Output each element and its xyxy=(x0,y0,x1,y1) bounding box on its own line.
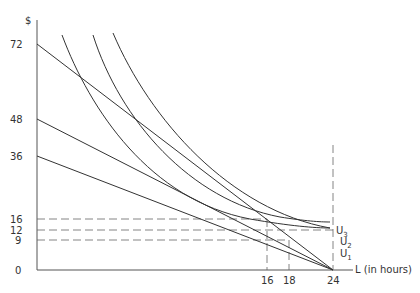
y-tick-48: 48 xyxy=(10,114,23,125)
x-tick-16: 16 xyxy=(261,275,274,286)
y-tick-72: 72 xyxy=(10,39,23,50)
x-axis-label: L (in hours) xyxy=(355,264,412,275)
x-tick-18: 18 xyxy=(283,275,296,286)
label-u1: U1 xyxy=(340,248,352,262)
indifference-curves xyxy=(62,33,330,228)
y-tick-9: 9 xyxy=(15,235,21,246)
reference-lines xyxy=(37,145,333,270)
chart: $ 72 48 36 16 12 9 0 16 18 24 L (in hour… xyxy=(0,0,420,293)
y-axis-label: $ xyxy=(25,15,31,26)
y-tick-0: 0 xyxy=(15,265,21,276)
x-tick-24: 24 xyxy=(327,275,340,286)
y-tick-16: 16 xyxy=(10,214,23,225)
curve-u2 xyxy=(93,35,330,222)
curve-u3 xyxy=(113,33,330,228)
y-tick-36: 36 xyxy=(10,151,23,162)
curve-u1 xyxy=(62,35,330,228)
